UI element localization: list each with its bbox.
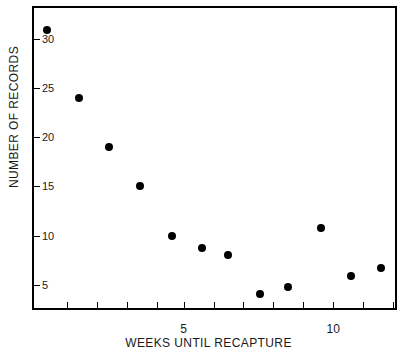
y-tick-mark	[34, 39, 40, 40]
y-tick-label: 5	[42, 279, 48, 291]
x-tick-mark	[157, 302, 158, 308]
data-point	[43, 26, 51, 34]
y-tick-mark	[34, 186, 40, 187]
y-tick-label: 20	[42, 131, 54, 143]
x-tick-mark	[363, 302, 364, 308]
y-tick-mark	[34, 137, 40, 138]
x-tick-mark	[243, 302, 244, 308]
x-tick-mark	[333, 302, 334, 308]
data-point	[284, 283, 292, 291]
data-point	[75, 94, 83, 102]
data-point	[168, 232, 176, 240]
y-tick-label: 25	[42, 82, 54, 94]
data-point	[198, 244, 206, 252]
x-tick-mark	[303, 302, 304, 308]
x-tick-label: 10	[326, 322, 339, 336]
x-tick-mark	[214, 302, 215, 308]
data-point	[136, 182, 144, 190]
data-point	[317, 224, 325, 232]
x-tick-mark	[184, 302, 185, 308]
x-axis-title: WEEKS UNTIL RECAPTURE	[0, 336, 417, 350]
x-tick-mark	[127, 302, 128, 308]
y-tick-mark	[34, 236, 40, 237]
y-tick-label: 30	[42, 33, 54, 45]
y-tick-mark	[34, 88, 40, 89]
y-axis-title: NUMBER OF RECORDS	[7, 17, 21, 217]
data-point	[256, 290, 264, 298]
data-point	[224, 251, 232, 259]
y-tick-mark	[34, 285, 40, 286]
chart-figure: NUMBER OF RECORDS 51015202530 510 WEEKS …	[0, 0, 417, 358]
plot-area: 51015202530 510	[32, 6, 397, 310]
x-tick-mark	[393, 302, 394, 308]
data-point	[377, 264, 385, 272]
x-tick-label: 5	[180, 322, 187, 336]
y-tick-label: 10	[42, 230, 54, 242]
x-tick-mark	[97, 302, 98, 308]
data-point	[105, 143, 113, 151]
y-tick-label: 15	[42, 180, 54, 192]
x-tick-mark	[273, 302, 274, 308]
data-point	[347, 272, 355, 280]
x-tick-mark	[67, 302, 68, 308]
